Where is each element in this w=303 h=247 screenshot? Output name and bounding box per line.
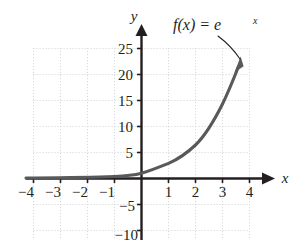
y-tick-label: 15 — [118, 93, 133, 109]
x-tick-label: 3 — [219, 184, 227, 200]
function-label-text: f(x) = e — [173, 16, 221, 34]
y-axis-label: y — [129, 8, 138, 24]
y-tick-label: 5 — [126, 145, 134, 161]
y-tick-label: 25 — [118, 41, 133, 57]
y-tick-label: 20 — [118, 67, 133, 83]
x-tick-label: −3 — [45, 184, 61, 200]
x-tick-label: 2 — [192, 184, 200, 200]
curve-arrowhead — [235, 57, 244, 73]
function-label-exponent: x — [252, 15, 258, 26]
x-tick-label: −1 — [99, 184, 115, 200]
y-tick-label: −10 — [115, 227, 138, 243]
x-tick-label: 1 — [165, 184, 173, 200]
x-axis-arrowhead — [262, 173, 275, 185]
x-tick-labels: −4 −3 −2 −1 1 2 3 4 — [18, 184, 254, 200]
exponential-function-plot: 25 20 15 10 5 −5 −10 −4 −3 −2 −1 1 2 3 4… — [0, 0, 303, 247]
x-axis-label: x — [281, 170, 289, 186]
leader-line-path — [218, 36, 240, 59]
chart-figure: 25 20 15 10 5 −5 −10 −4 −3 −2 −1 1 2 3 4… — [0, 0, 303, 247]
x-tick-label: −2 — [72, 184, 88, 200]
x-tick-label: 4 — [246, 184, 254, 200]
y-tick-label: −5 — [119, 198, 135, 214]
label-leader-line — [218, 36, 240, 59]
y-tick-labels: 25 20 15 10 5 −5 −10 — [115, 41, 138, 243]
y-axis-arrowhead — [136, 24, 148, 36]
x-tick-label: −4 — [18, 184, 34, 200]
y-tick-label: 10 — [118, 119, 133, 135]
function-label: f(x) = e x — [173, 15, 258, 34]
